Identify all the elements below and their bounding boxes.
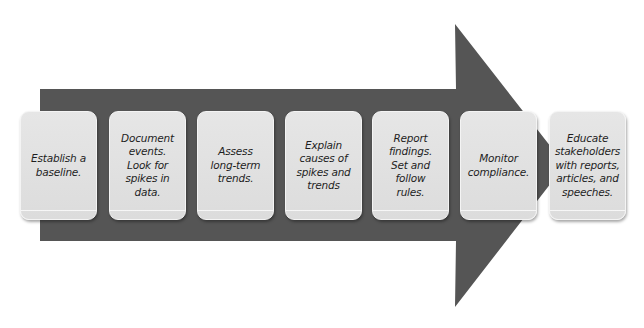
step-card-document-events: Document events. Look for spikes in data…: [109, 111, 186, 220]
step-label: Establish a baseline.: [28, 152, 89, 179]
step-card-assess-trends: Assess long-term trends.: [197, 111, 274, 220]
step-label: Explain causes of spikes and trends: [293, 139, 353, 193]
step-label: Monitor compliance.: [465, 152, 532, 179]
step-label: Assess long-term trends.: [208, 145, 264, 186]
step-card-explain-causes: Explain causes of spikes and trends: [285, 111, 362, 220]
step-label: Educate stakeholders with reports, artic…: [552, 132, 623, 200]
step-card-establish-baseline: Establish a baseline.: [20, 111, 97, 220]
step-card-monitor-compliance: Monitor compliance.: [460, 111, 537, 220]
step-card-educate-stakeholders: Educate stakeholders with reports, artic…: [549, 111, 626, 220]
step-label: Report findings. Set and follow rules.: [386, 132, 435, 200]
step-label: Document events. Look for spikes in data…: [118, 132, 177, 200]
step-card-report-findings: Report findings. Set and follow rules.: [372, 111, 449, 220]
